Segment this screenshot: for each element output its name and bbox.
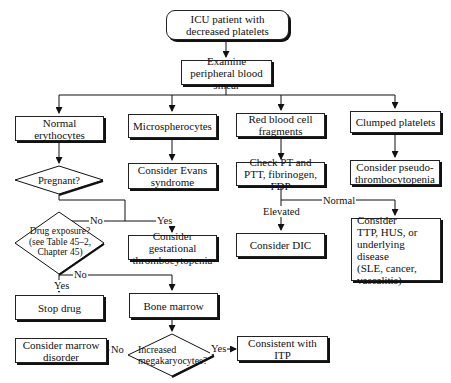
normal-erythrocytes-node: Normal erythocytes <box>15 116 104 141</box>
marrow-disorder-node: Consider marrow disorder <box>15 338 107 363</box>
clumped-platelets-node: Clumped platelets <box>350 111 441 133</box>
check-pt-ptt-node: Check PT and PTT, fibrinogen, FDP <box>236 162 325 186</box>
examine-smear-node: Examine peripheral blood smear <box>181 60 272 85</box>
edge-label-mega-yes: Yes <box>210 343 227 354</box>
edge-label-drug-no: No <box>73 269 88 280</box>
drug-exposure-decision-label: Drug exposure? (see Table 45–2, Chapter … <box>24 226 96 258</box>
edge-label-normal: Normal <box>322 195 356 206</box>
evans-syndrome-node: Consider Evans syndrome <box>128 163 217 189</box>
pseudothrombocytopenia-node: Consider pseudo- thrombocytopenia <box>350 160 440 185</box>
gestational-thrombocytopenia-node: Consider gestational thrombocytopenia <box>128 235 217 260</box>
edge-label-drug-yes: Yes <box>53 280 70 291</box>
edge-label-pregnant-yes: Yes <box>156 215 173 226</box>
edge-label-mega-no: No <box>110 344 125 355</box>
edge-label-pregnant-no: No <box>89 215 104 226</box>
megakaryocytes-decision-label: Increased megakaryocytes? <box>138 344 218 366</box>
rbc-fragments-node: Red blood cell fragments <box>236 113 325 137</box>
pregnant-decision-label: Pregnant? <box>29 175 89 186</box>
start-node: ICU patient with decreased platelets <box>166 10 289 40</box>
edge-label-elevated: Elevated <box>262 206 301 217</box>
consistent-with-itp-node: Consistent with ITP <box>237 336 328 361</box>
stop-drug-node: Stop drug <box>15 295 104 320</box>
consider-dic-node: Consider DIC <box>236 233 325 257</box>
microspherocytes-node: Microspherocytes <box>128 114 217 138</box>
consider-ttp-hus-node: Consider TTP, HUS, or underlying disease… <box>351 218 441 281</box>
flowchart-canvas: ICU patient with decreased platelets Exa… <box>0 0 451 383</box>
bone-marrow-node: Bone marrow <box>129 293 218 318</box>
